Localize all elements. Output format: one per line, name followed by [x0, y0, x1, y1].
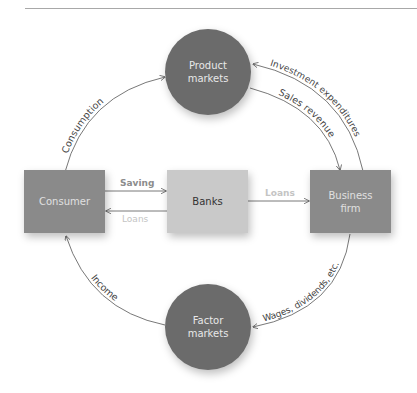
product-markets-node: Product markets [165, 29, 251, 115]
business-label-2: firm [328, 202, 372, 215]
business-label-1: Business [328, 189, 372, 202]
saving-label: Saving [120, 178, 154, 188]
income-arrow [66, 236, 165, 325]
consumer-label: Consumer [39, 195, 90, 208]
svg-text:Income: Income [89, 272, 121, 303]
factor-markets-label-2: markets [188, 327, 229, 340]
banks-label: Banks [192, 195, 222, 208]
product-markets-label-2: markets [188, 72, 229, 85]
factor-markets-node: Factor markets [165, 284, 251, 370]
loans-consumer-label: Loans [122, 214, 148, 224]
banks-node: Banks [167, 170, 248, 233]
consumer-node: Consumer [24, 170, 105, 233]
income-label: Income [89, 272, 121, 303]
svg-text:Wages, dividends, etc.: Wages, dividends, etc. [262, 260, 341, 323]
svg-text:Consumption: Consumption [59, 95, 105, 155]
consumption-label: Consumption [59, 95, 105, 155]
wages-label: Wages, dividends, etc. [262, 260, 341, 323]
product-markets-label-1: Product [188, 59, 229, 72]
loans-business-label: Loans [265, 188, 295, 198]
factor-markets-label-1: Factor [188, 314, 229, 327]
business-firm-node: Business firm [310, 170, 391, 233]
